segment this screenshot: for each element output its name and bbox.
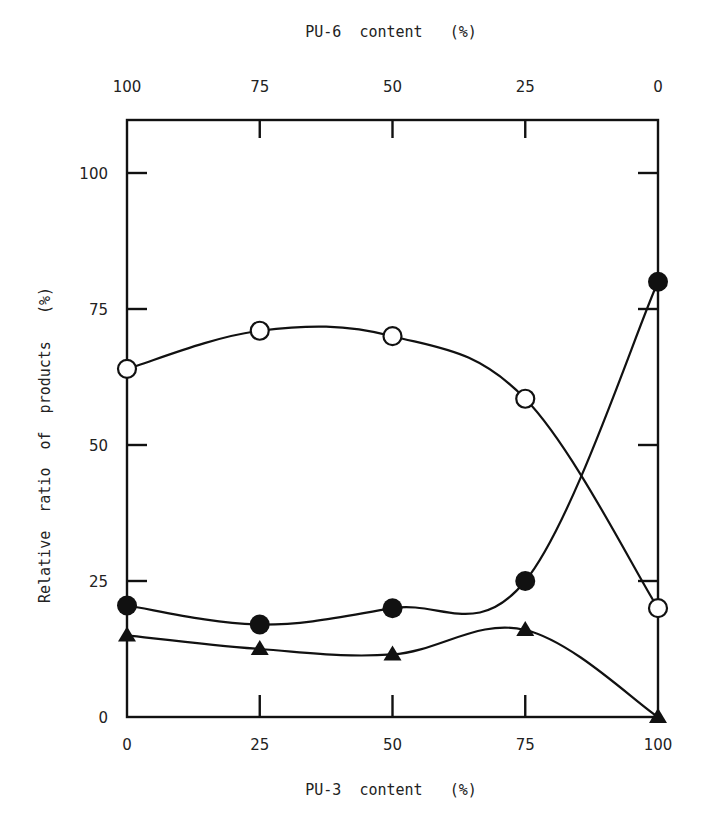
open-circle-marker	[251, 322, 269, 340]
filled-circle-marker	[250, 615, 270, 635]
y-tick-label: 100	[79, 165, 108, 183]
y-tick-label: 50	[89, 437, 108, 455]
plot-border	[127, 120, 658, 717]
x2-tick-label: 75	[250, 78, 269, 96]
chart: 025507510010075502500255075100 PU-6 cont…	[0, 0, 708, 827]
bottom-axis-title: PU-3 content (%)	[305, 781, 477, 799]
y-tick-label: 0	[98, 709, 108, 727]
axis-tick-labels: 025507510010075502500255075100	[79, 78, 672, 754]
x-tick-label: 25	[250, 736, 269, 754]
x2-tick-label: 25	[516, 78, 535, 96]
open-circle-marker	[384, 327, 402, 345]
axis-ticks	[127, 120, 658, 717]
filled-circle-marker	[648, 272, 668, 292]
filled-circle-marker	[117, 595, 137, 615]
plot-frame	[127, 120, 658, 717]
open-circle-marker	[649, 599, 667, 617]
top-axis-title: PU-6 content (%)	[305, 23, 477, 41]
x2-tick-label: 50	[383, 78, 402, 96]
series-markers	[117, 272, 668, 723]
x-tick-label: 0	[122, 736, 132, 754]
x-tick-label: 75	[516, 736, 535, 754]
open-circle-marker	[516, 390, 534, 408]
filled-circle-marker	[383, 598, 403, 618]
y-tick-label: 75	[89, 301, 108, 319]
x-tick-label: 50	[383, 736, 402, 754]
x2-tick-label: 100	[113, 78, 142, 96]
filled-circle-marker	[515, 571, 535, 591]
filled-triangle-marker	[118, 626, 136, 641]
y-axis-title: Relative ratio of products (%)	[36, 287, 54, 603]
x2-tick-label: 0	[653, 78, 663, 96]
x-tick-label: 100	[644, 736, 673, 754]
open-circle-curve	[127, 327, 658, 609]
filled-triangle-marker	[649, 708, 667, 723]
y-tick-label: 25	[89, 573, 108, 591]
open-circle-marker	[118, 360, 136, 378]
